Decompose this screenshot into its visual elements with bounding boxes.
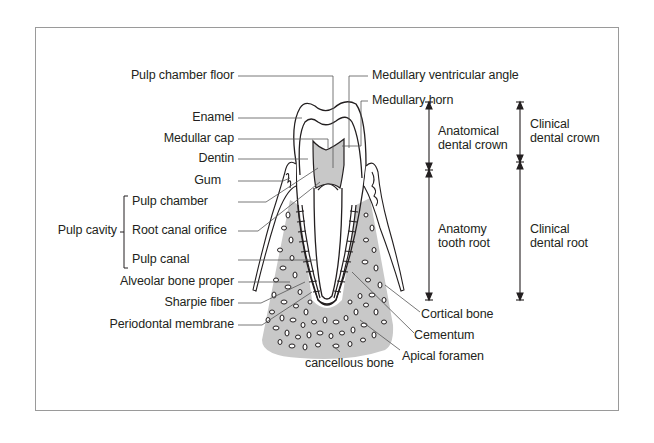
label-clinical-dental-crown: Clinical dental crown [530,117,600,145]
label-anatomical-dental-crown: Anatomical dental crown [438,124,508,152]
label-gum: Gum [194,173,221,187]
label-medullary-ventricular-angle: Medullary ventricular angle [372,68,519,82]
pulp-chamber-shape [313,139,344,190]
label-clinical-dental-root: Clinical dental root [530,222,588,250]
label-alveolar-bone-proper: Alveolar bone proper [120,274,234,288]
label-medullar-cap: Medullar cap [164,131,234,145]
label-cortical-bone: Cortical bone [421,307,493,321]
label-enamel: Enamel [192,110,234,124]
label-root-canal-orifice: Root canal orifice [132,223,227,237]
label-apical-foramen: Apical foramen [402,349,484,363]
label-pulp-chamber-floor: Pulp chamber floor [131,68,234,82]
label-anatomy-tooth-root: Anatomy tooth root [438,222,490,250]
label-medullary-horn: Medullary horn [372,93,453,107]
label-dentin: Dentin [198,151,234,165]
pulp-cavity-bracket [120,196,128,268]
label-periodontal-membrane: Periodontal membrane [110,317,234,331]
label-pulp-cavity: Pulp cavity [58,223,117,237]
label-pulp-chamber: Pulp chamber [132,194,208,208]
label-cementum: Cementum [414,328,474,342]
label-pulp-canal: Pulp canal [132,252,189,266]
label-sharpie-fiber: Sharpie fiber [164,295,234,309]
label-cancellous-bone: cancellous bone [305,356,394,370]
